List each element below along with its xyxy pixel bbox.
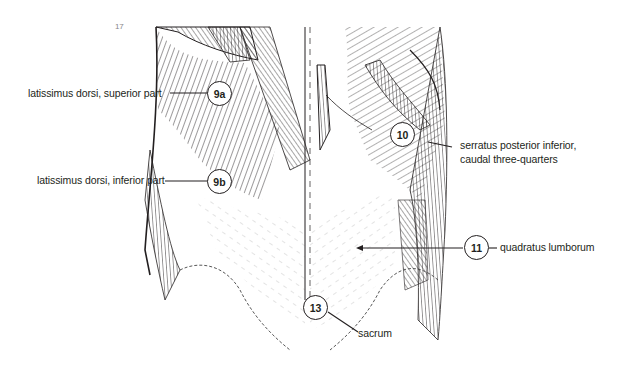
callout-10: 10 <box>390 122 415 147</box>
label-sacrum: sacrum <box>358 327 392 340</box>
leader-13 <box>328 312 358 332</box>
anatomy-figure: 17 latissimus dorsi, superior part 9a la… <box>0 0 629 379</box>
label-latissimus-dorsi-superior: latissimus dorsi, superior part <box>28 87 161 100</box>
label-serratus-posterior-inferior-line2: caudal three-quarters <box>460 153 558 166</box>
back-muscles-illustration <box>0 0 629 379</box>
label-serratus-posterior-inferior-line1: serratus posterior inferior, <box>460 139 576 152</box>
callout-9a: 9a <box>207 81 232 106</box>
callout-11: 11 <box>464 235 489 260</box>
callout-9b: 9b <box>207 169 232 194</box>
label-latissimus-dorsi-inferior: latissimus dorsi, inferior part <box>37 174 165 187</box>
label-quadratus-lumborum: quadratus lumborum <box>500 241 595 254</box>
corner-mark: 17 <box>115 20 124 33</box>
callout-13: 13 <box>303 295 328 320</box>
